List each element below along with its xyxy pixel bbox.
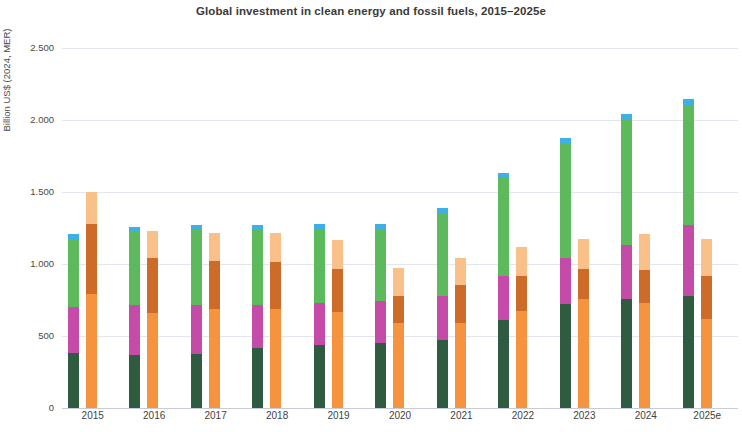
bar-segment[interactable]: [314, 345, 325, 408]
clean-energy-bar[interactable]: [498, 173, 509, 408]
bar-segment[interactable]: [252, 348, 263, 408]
bar-segment[interactable]: [147, 313, 158, 408]
bar-segment[interactable]: [86, 224, 97, 295]
bar-segment[interactable]: [86, 294, 97, 408]
bar-segment[interactable]: [375, 301, 386, 343]
bar-group: [246, 48, 307, 408]
bar-segment[interactable]: [314, 229, 325, 302]
bar-segment[interactable]: [209, 309, 220, 408]
bar-group: [431, 48, 492, 408]
fossil-fuel-bar[interactable]: [147, 231, 158, 408]
x-axis-tick-label: 2019: [308, 410, 370, 421]
bar-segment[interactable]: [252, 305, 263, 347]
bar-segment[interactable]: [209, 261, 220, 309]
bar-group: [615, 48, 676, 408]
bar-segment[interactable]: [621, 119, 632, 244]
x-axis-tick-label: 2024: [615, 410, 677, 421]
bar-segment[interactable]: [393, 268, 404, 296]
bar-segment[interactable]: [332, 269, 343, 312]
clean-energy-bar[interactable]: [621, 114, 632, 408]
fossil-fuel-bar[interactable]: [639, 234, 650, 408]
bar-segment[interactable]: [516, 247, 527, 276]
bar-segment[interactable]: [516, 276, 527, 311]
bar-segment[interactable]: [68, 353, 79, 408]
fossil-fuel-bar[interactable]: [86, 192, 97, 408]
bar-segment[interactable]: [701, 319, 712, 408]
bar-segment[interactable]: [639, 270, 650, 303]
fossil-fuel-bar[interactable]: [209, 233, 220, 408]
bar-segment[interactable]: [498, 320, 509, 408]
bar-segment[interactable]: [437, 296, 448, 339]
bar-segment[interactable]: [560, 143, 571, 258]
bar-segment[interactable]: [455, 258, 466, 285]
bar-segment[interactable]: [375, 230, 386, 301]
bar-segment[interactable]: [437, 214, 448, 297]
bar-segment[interactable]: [437, 340, 448, 408]
bar-segment[interactable]: [701, 239, 712, 276]
bar-segment[interactable]: [86, 192, 97, 224]
clean-energy-bar[interactable]: [314, 224, 325, 408]
clean-energy-bar[interactable]: [437, 208, 448, 408]
bar-segment[interactable]: [191, 305, 202, 354]
bar-segment[interactable]: [129, 232, 140, 305]
x-axis-tick-label: 2015: [62, 410, 124, 421]
bar-segment[interactable]: [560, 304, 571, 408]
bar-segment[interactable]: [578, 299, 589, 408]
bar-segment[interactable]: [516, 311, 527, 408]
clean-energy-bar[interactable]: [129, 227, 140, 408]
bar-segment[interactable]: [621, 299, 632, 408]
bar-group: [369, 48, 430, 408]
bar-segment[interactable]: [683, 296, 694, 408]
x-axis-tick-label: 2016: [123, 410, 185, 421]
fossil-fuel-bar[interactable]: [578, 239, 589, 408]
bar-segment[interactable]: [68, 240, 79, 308]
bar-segment[interactable]: [701, 276, 712, 319]
bar-segment[interactable]: [639, 234, 650, 270]
bar-segment[interactable]: [270, 262, 281, 309]
fossil-fuel-bar[interactable]: [455, 258, 466, 408]
clean-energy-bar[interactable]: [560, 138, 571, 408]
bar-segment[interactable]: [393, 323, 404, 408]
bar-segment[interactable]: [393, 296, 404, 323]
fossil-fuel-bar[interactable]: [332, 240, 343, 408]
bar-segment[interactable]: [147, 231, 158, 258]
bar-segment[interactable]: [68, 307, 79, 353]
bar-segment[interactable]: [683, 105, 694, 225]
bar-segment[interactable]: [270, 233, 281, 262]
fossil-fuel-bar[interactable]: [516, 247, 527, 408]
fossil-fuel-bar[interactable]: [270, 233, 281, 408]
clean-energy-bar[interactable]: [375, 224, 386, 408]
bar-segment[interactable]: [209, 233, 220, 261]
clean-energy-bar[interactable]: [68, 234, 79, 408]
fossil-fuel-bar[interactable]: [393, 268, 404, 408]
bar-segment[interactable]: [332, 240, 343, 270]
bar-segment[interactable]: [498, 178, 509, 276]
bar-segment[interactable]: [191, 354, 202, 408]
bar-segment[interactable]: [314, 303, 325, 345]
clean-energy-bar[interactable]: [683, 99, 694, 408]
bar-group: [308, 48, 369, 408]
bar-segment[interactable]: [621, 245, 632, 299]
bar-segment[interactable]: [498, 276, 509, 321]
bar-group: [492, 48, 553, 408]
bar-segment[interactable]: [683, 225, 694, 296]
bar-segment[interactable]: [129, 355, 140, 408]
clean-energy-bar[interactable]: [191, 225, 202, 408]
x-axis-tick-label: 2018: [246, 410, 308, 421]
bar-segment[interactable]: [560, 258, 571, 304]
y-axis-title: Billion US$ (2024, MER): [1, 0, 12, 160]
bar-segment[interactable]: [191, 230, 202, 305]
bar-segment[interactable]: [270, 309, 281, 408]
bar-segment[interactable]: [147, 258, 158, 313]
bar-segment[interactable]: [455, 285, 466, 323]
bar-segment[interactable]: [252, 230, 263, 305]
bar-segment[interactable]: [455, 323, 466, 408]
bar-segment[interactable]: [375, 343, 386, 408]
bar-segment[interactable]: [129, 305, 140, 355]
fossil-fuel-bar[interactable]: [701, 239, 712, 408]
bar-segment[interactable]: [578, 239, 589, 269]
clean-energy-bar[interactable]: [252, 225, 263, 408]
bar-segment[interactable]: [332, 312, 343, 408]
bar-segment[interactable]: [578, 269, 589, 299]
bar-segment[interactable]: [639, 303, 650, 408]
